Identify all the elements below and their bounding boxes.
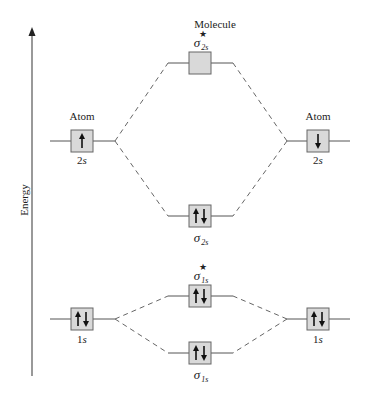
left-1s-label: 1s: [77, 334, 87, 345]
sigma-2s-level: [168, 205, 233, 227]
left-1s-level: [50, 308, 115, 330]
atom-right-header: Atom: [305, 111, 330, 122]
sigma-star-2s-level: [168, 52, 233, 74]
2s-correlation-lines: [115, 63, 287, 216]
sigma-star-1s-label: σ1s★: [194, 269, 209, 285]
sigma-star-2s-label: σ2s★: [194, 36, 209, 52]
sigma-star-1s-level: [168, 285, 233, 307]
left-2s-label: 2s: [77, 155, 87, 166]
right-1s-label: 1s: [313, 334, 323, 345]
right-2s-level: [287, 130, 350, 152]
atom-left-header: Atom: [69, 111, 94, 122]
sigma-2s-label: σ2s: [194, 231, 209, 247]
left-2s-level: [50, 130, 115, 152]
sigma-1s-level: [168, 342, 233, 364]
right-1s-level: [287, 308, 350, 330]
energy-axis-label: Energy: [18, 184, 30, 216]
sigma-1s-label: σ1s: [194, 368, 209, 384]
right-2s-label: 2s: [313, 155, 323, 166]
energy-axis-arrow-icon: [29, 27, 36, 36]
